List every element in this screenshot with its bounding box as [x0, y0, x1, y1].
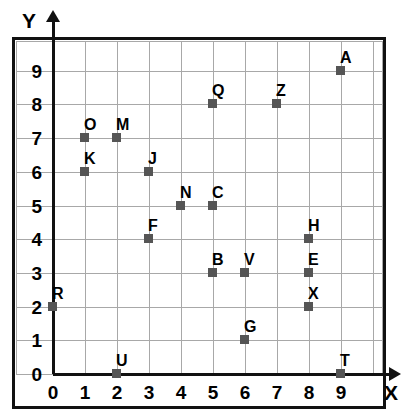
data-point-marker — [80, 133, 89, 142]
x-tick-label: 2 — [106, 383, 128, 402]
data-point-label: Z — [276, 83, 286, 99]
x-tick-label: 3 — [138, 383, 160, 402]
y-axis-arrow-icon — [46, 10, 60, 22]
data-point-label: V — [244, 252, 255, 268]
gridline-horizontal — [16, 104, 382, 105]
x-tick-label: 1 — [74, 383, 96, 402]
data-point-marker — [240, 268, 249, 277]
data-point-marker — [144, 234, 153, 243]
data-point-label: G — [244, 319, 256, 335]
data-point-label: H — [308, 218, 320, 234]
gridline-horizontal — [16, 273, 382, 274]
y-axis-label: Y — [22, 10, 36, 31]
data-point-marker — [336, 66, 345, 75]
y-tick-label: 2 — [22, 298, 42, 317]
data-point-marker — [112, 133, 121, 142]
gridline-vertical — [373, 41, 374, 374]
gridline-horizontal — [16, 172, 382, 173]
data-point-label: X — [308, 286, 319, 302]
x-tick-label: 4 — [170, 383, 192, 402]
data-point-marker — [144, 167, 153, 176]
y-tick-label: 6 — [22, 163, 42, 182]
gridline-vertical — [309, 41, 310, 374]
x-axis-arrow-icon — [389, 367, 401, 381]
y-tick-label: 0 — [22, 365, 42, 384]
y-tick-label: 5 — [22, 197, 42, 216]
x-tick-label: 8 — [298, 383, 320, 402]
y-tick-label: 8 — [22, 95, 42, 114]
plot-area: YX01234567890123456789AQZOMKJNCFHBVERXGT… — [0, 0, 405, 415]
data-point-label: U — [116, 353, 128, 369]
y-tick-label: 3 — [22, 264, 42, 283]
data-point-marker — [272, 99, 281, 108]
gridline-vertical — [16, 41, 17, 374]
x-tick-label: 0 — [42, 383, 64, 402]
y-tick-label: 7 — [22, 129, 42, 148]
data-point-label: T — [340, 353, 350, 369]
gridline-vertical — [85, 41, 86, 374]
coordinate-grid-figure: YX01234567890123456789AQZOMKJNCFHBVERXGT… — [0, 0, 405, 415]
data-point-label: M — [116, 117, 129, 133]
data-point-marker — [48, 302, 57, 311]
y-tick-label: 4 — [22, 230, 42, 249]
data-point-marker — [304, 302, 313, 311]
data-point-marker — [240, 335, 249, 344]
x-axis-label: X — [384, 382, 398, 403]
x-tick-label: 9 — [330, 383, 352, 402]
gridline-vertical — [341, 41, 342, 374]
gridline-horizontal — [16, 206, 382, 207]
data-point-label: J — [148, 151, 157, 167]
data-point-label: K — [84, 151, 96, 167]
data-point-label: O — [84, 117, 96, 133]
y-axis-line — [52, 22, 55, 374]
data-point-label: N — [180, 185, 192, 201]
data-point-marker — [336, 369, 345, 378]
data-point-label: A — [340, 50, 352, 66]
data-point-label: Q — [212, 83, 224, 99]
data-point-label: E — [308, 252, 319, 268]
data-point-label: F — [148, 218, 158, 234]
y-tick-label: 9 — [22, 62, 42, 81]
data-point-marker — [304, 234, 313, 243]
data-point-marker — [208, 201, 217, 210]
gridline-horizontal — [16, 239, 382, 240]
data-point-marker — [80, 167, 89, 176]
y-tick-label: 1 — [22, 331, 42, 350]
data-point-marker — [304, 268, 313, 277]
gridline-horizontal — [16, 340, 382, 341]
gridline-vertical — [117, 41, 118, 374]
x-tick-label: 6 — [234, 383, 256, 402]
gridline-horizontal — [16, 71, 382, 72]
data-point-marker — [112, 369, 121, 378]
data-point-label: B — [212, 252, 224, 268]
x-tick-label: 7 — [266, 383, 288, 402]
x-tick-label: 5 — [202, 383, 224, 402]
data-point-label: R — [52, 286, 64, 302]
gridline-vertical — [382, 41, 383, 374]
data-point-label: C — [212, 185, 224, 201]
data-point-marker — [208, 99, 217, 108]
gridline-horizontal — [16, 138, 382, 139]
data-point-marker — [176, 201, 185, 210]
data-point-marker — [208, 268, 217, 277]
gridline-horizontal — [16, 41, 382, 42]
gridline-vertical — [149, 41, 150, 374]
gridline-horizontal — [16, 307, 382, 308]
